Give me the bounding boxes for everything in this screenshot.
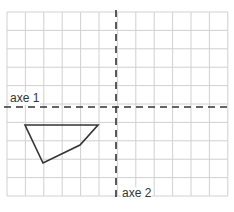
quadrilateral-shape [25, 125, 98, 163]
grid-diagram [0, 0, 234, 212]
axis-2-label: axe 2 [121, 187, 152, 200]
axis-1-label: axe 1 [9, 92, 40, 105]
